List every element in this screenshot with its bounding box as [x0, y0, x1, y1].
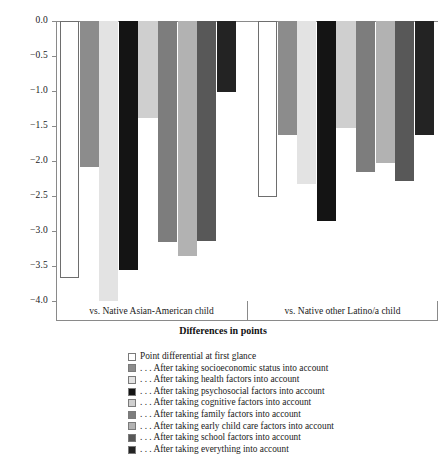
- legend-swatch: [128, 353, 136, 361]
- legend-item: . . . After taking everything into accou…: [128, 444, 438, 456]
- chart-legend: Point differential at first glance. . . …: [128, 351, 438, 455]
- plot-area: 0.0−0.5−1.0−1.5−2.0−2.5−3.0−3.5−4.0 vs. …: [0, 0, 446, 345]
- bar: [297, 21, 316, 184]
- legend-swatch: [128, 434, 136, 442]
- legend-swatch: [128, 388, 136, 396]
- legend-item: . . . After taking school factors into a…: [128, 432, 438, 444]
- bar: [119, 21, 138, 270]
- legend-swatch: [128, 446, 136, 454]
- legend-item: Point differential at first glance: [128, 351, 438, 363]
- legend-item: . . . After taking socioeconomic status …: [128, 363, 438, 375]
- bars-layer: [0, 0, 446, 345]
- bar: [415, 21, 434, 135]
- legend-item: . . . After taking family factors into a…: [128, 409, 438, 421]
- legend-label: . . . After taking psychosocial factors …: [140, 386, 325, 398]
- bar: [356, 21, 375, 172]
- bar: [278, 21, 297, 135]
- category-label: vs. Native Asian-American child: [42, 306, 262, 316]
- bar: [138, 21, 157, 118]
- bar: [258, 21, 277, 197]
- legend-swatch: [128, 364, 136, 372]
- bar-chart: 0.0−0.5−1.0−1.5−2.0−2.5−3.0−3.5−4.0 vs. …: [0, 0, 446, 470]
- legend-item: . . . After taking early child care fact…: [128, 421, 438, 433]
- legend-item: . . . After taking psychosocial factors …: [128, 386, 438, 398]
- x-axis-title: Differences in points: [0, 325, 446, 336]
- bar: [317, 21, 336, 221]
- bar: [60, 21, 79, 278]
- legend-item: . . . After taking cognitive factors int…: [128, 397, 438, 409]
- bar: [376, 21, 395, 163]
- legend-label: . . . After taking cognitive factors int…: [140, 397, 311, 409]
- legend-label: . . . After taking socioeconomic status …: [140, 363, 328, 375]
- bar: [395, 21, 414, 181]
- legend-label: . . . After taking everything into accou…: [140, 444, 289, 456]
- legend-swatch: [128, 411, 136, 419]
- legend-item: . . . After taking health factors into a…: [128, 374, 438, 386]
- bar: [217, 21, 236, 92]
- bar: [158, 21, 177, 242]
- legend-label: . . . After taking health factors into a…: [140, 374, 299, 386]
- category-label: vs. Native other Latino/a child: [233, 306, 446, 316]
- bar: [197, 21, 216, 241]
- legend-label: Point differential at first glance: [140, 351, 256, 363]
- bar: [178, 21, 197, 256]
- bar: [336, 21, 355, 128]
- legend-swatch: [128, 399, 136, 407]
- legend-label: . . . After taking family factors into a…: [140, 409, 301, 421]
- legend-swatch: [128, 422, 136, 430]
- bar: [80, 21, 99, 167]
- bar: [99, 21, 118, 301]
- legend-label: . . . After taking early child care fact…: [140, 421, 334, 433]
- legend-label: . . . After taking school factors into a…: [140, 432, 301, 444]
- legend-swatch: [128, 376, 136, 384]
